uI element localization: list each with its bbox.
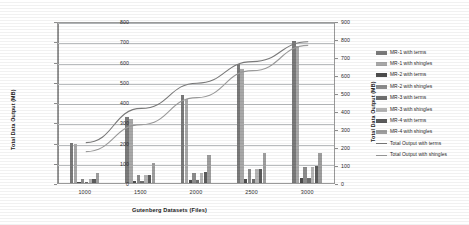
chart-container: 0100200300400500600700800 01002003004005… [0,0,469,225]
legend-label: MR-4 with shingles [390,129,432,135]
y-tick-mark-right [335,148,338,149]
legend-color-swatch [376,73,387,77]
y-tick-label-right: 200 [341,145,365,151]
legend-label: MR-1 with terms [390,50,426,56]
y-tick-mark-right [335,94,338,95]
y-tick-mark-right [335,76,338,77]
legend-line-swatch [376,155,387,156]
y-tick-label-right: 400 [341,109,365,115]
y-tick-label-left: 0 [105,181,129,187]
x-tick-label: 3000 [287,189,327,195]
y-tick-label-left: 800 [105,19,129,25]
y-tick-mark-right [335,184,338,185]
x-tick-label: 1500 [120,189,160,195]
legend-item: MR-2 with shingles [376,81,468,92]
y-tick-mark-left [54,83,57,84]
bar [129,119,132,183]
chart-legend: MR-1 with termsMR-1 with shinglesMR-2 wi… [376,47,468,161]
bar [263,153,266,183]
x-tick-label: 2500 [232,189,272,195]
y-tick-mark-left [54,63,57,64]
y-tick-mark-left [54,123,57,124]
bar-group [292,23,322,183]
legend-color-swatch [376,119,387,123]
legend-label: MR-2 with shingles [390,84,432,90]
legend-line-swatch [376,143,387,144]
y-tick-label-right: 500 [341,91,365,97]
legend-label: MR-1 with shingles [390,61,432,67]
y-tick-mark-left [54,42,57,43]
y-axis-left-title: Total Data Output (MB) [10,89,16,150]
y-tick-mark-left [54,144,57,145]
legend-color-swatch [376,130,387,134]
y-tick-label-left: 100 [105,161,129,167]
bar [240,69,243,183]
legend-color-swatch [376,96,387,100]
y-tick-label-left: 700 [105,39,129,45]
y-tick-mark-left [54,164,57,165]
bar [185,99,188,183]
y-tick-label-left: 200 [105,141,129,147]
legend-item: MR-4 with terms [376,115,468,126]
bar [318,153,321,183]
y-tick-mark-right [335,40,338,41]
y-tick-mark-left [54,22,57,23]
bar-group [125,23,155,183]
y-tick-mark-right [335,130,338,131]
y-tick-label-right: 300 [341,127,365,133]
y-tick-label-right: 800 [341,37,365,43]
legend-item: MR-1 with shingles [376,58,468,69]
y-tick-mark-left [54,103,57,104]
y-tick-label-right: 700 [341,55,365,61]
y-tick-label-right: 900 [341,19,365,25]
legend-label: MR-3 with shingles [390,107,432,113]
y-tick-mark-left [54,184,57,185]
bar-group [181,23,211,183]
legend-item: MR-3 with terms [376,93,468,104]
legend-item: Total Output with shingles [376,150,468,161]
legend-label: MR-4 with terms [390,118,426,124]
y-tick-label-right: 100 [341,163,365,169]
y-tick-label-right: 0 [341,181,365,187]
x-tick-label: 1000 [65,189,105,195]
legend-label: MR-3 with terms [390,95,426,101]
y-tick-label-left: 300 [105,120,129,126]
legend-item: Total Output with terms [376,138,468,149]
y-tick-mark-right [335,22,338,23]
bar-group [70,23,100,183]
legend-label: Total Output with terms [390,141,441,147]
legend-color-swatch [376,85,387,89]
y-tick-label-left: 500 [105,80,129,86]
legend-color-swatch [376,108,387,112]
y-tick-mark-right [335,58,338,59]
y-tick-label-left: 400 [105,100,129,106]
legend-item: MR-1 with terms [376,47,468,58]
legend-color-swatch [376,51,387,55]
y-tick-mark-right [335,112,338,113]
bar-series-layer [58,23,334,183]
bar [207,155,210,183]
legend-item: MR-3 with shingles [376,104,468,115]
x-axis-title: Gutenberg Datasets (Files) [132,207,207,213]
legend-color-swatch [376,62,387,66]
legend-label: MR-2 with terms [390,72,426,78]
bar [152,163,155,183]
legend-item: MR-4 with shingles [376,127,468,138]
bar [296,46,299,183]
bar [74,144,77,183]
y-tick-label-left: 600 [105,60,129,66]
legend-item: MR-2 with terms [376,70,468,81]
x-tick-label: 2000 [176,189,216,195]
bar [96,173,99,183]
y-tick-label-right: 600 [341,73,365,79]
legend-label: Total Output with shingles [390,152,447,158]
y-tick-mark-right [335,166,338,167]
bar-group [237,23,267,183]
